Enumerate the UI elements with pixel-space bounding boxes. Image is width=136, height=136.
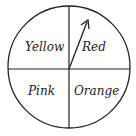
- spinner-diagram: Yellow Red Pink Orange: [0, 0, 136, 136]
- section-label-red: Red: [81, 40, 106, 54]
- section-label-pink: Pink: [27, 84, 55, 98]
- section-label-orange: Orange: [74, 84, 119, 98]
- section-label-yellow: Yellow: [25, 40, 65, 54]
